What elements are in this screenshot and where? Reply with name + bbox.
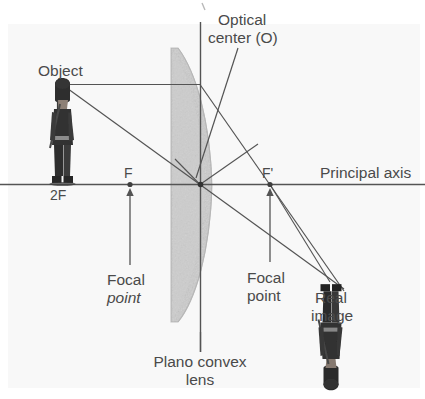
- lens-label-line2: lens: [186, 371, 215, 388]
- focal-point-left-marker: [127, 182, 132, 187]
- real-image-label-line2: image: [311, 307, 353, 324]
- object-label: Object: [38, 62, 83, 79]
- focal-point-right-symbol-label: F': [262, 165, 273, 181]
- two-f-label: 2F: [50, 187, 66, 203]
- principal-axis-label: Principal axis: [320, 164, 412, 181]
- optical-center-label-line1: Optical: [218, 11, 266, 28]
- focal-point-right-label-line1: Focal: [247, 269, 285, 286]
- scan-artifact-mark: [202, 3, 205, 10]
- focal-point-left-label-line2: point: [106, 289, 141, 306]
- focal-point-right-label-line2: point: [247, 287, 281, 304]
- optics-diagram: Optical center (O) Object 2F F F' Princi…: [0, 0, 425, 399]
- focal-point-right-marker: [267, 182, 272, 187]
- focal-point-left-symbol-label: F: [124, 165, 133, 181]
- optical-center-marker: [198, 182, 204, 188]
- ray-diagram-canvas: Optical center (O) Object 2F F F' Princi…: [0, 0, 425, 399]
- optical-center-label-line2: center (O): [208, 29, 278, 46]
- lens-label-line1: Plano convex: [153, 353, 246, 370]
- focal-point-left-label-line1: Focal: [107, 271, 145, 288]
- real-image-label-line1: Real: [315, 289, 347, 306]
